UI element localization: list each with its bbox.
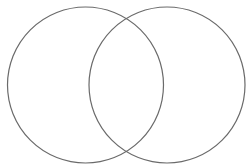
venn-circle-right [89, 7, 245, 163]
venn-circle-left [8, 7, 164, 163]
venn-diagram [0, 0, 251, 167]
venn-canvas [0, 0, 251, 167]
